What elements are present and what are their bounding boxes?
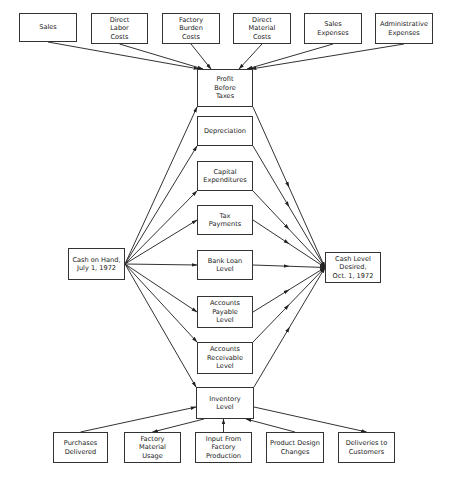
connector-arrow — [191, 44, 211, 69]
node-tax: Tax Payments — [197, 205, 253, 235]
node-capex: Capital Expenditures — [197, 161, 253, 191]
node-factory-burden: Factory Burden Costs — [162, 13, 220, 44]
connector-arrow — [253, 191, 325, 268]
connector-arrow — [253, 265, 325, 268]
connector-arrow — [253, 146, 325, 268]
node-direct-labor: Direct Labor Costs — [91, 13, 148, 44]
connector-arrow — [125, 264, 197, 312]
node-purchases: Purchases Delivered — [53, 432, 108, 463]
connector-arrow — [125, 264, 197, 265]
connector-arrow — [125, 220, 197, 264]
connector-arrow — [81, 407, 197, 432]
node-depreciation: Depreciation — [197, 116, 253, 146]
connector-arrow — [254, 268, 325, 388]
node-direct-material: Direct Material Costs — [233, 13, 291, 44]
node-bank-loan: Bank Loan Level — [197, 250, 253, 280]
node-inventory: Inventory Level — [196, 387, 254, 419]
connector-arrow — [251, 44, 404, 69]
node-ap: Accounts Payable Level — [197, 296, 253, 328]
node-factory-input: Input From Factory Production — [195, 432, 252, 463]
connector-arrow — [247, 44, 333, 69]
node-design-changes: Product Design Changes — [266, 432, 324, 463]
connector-arrow — [125, 264, 196, 387]
connector-arrow — [153, 419, 205, 432]
node-ar: Accounts Receivable Level — [197, 342, 253, 374]
connector-arrow — [120, 44, 204, 69]
connector-arrow — [125, 264, 197, 342]
connector-arrow — [48, 42, 199, 69]
node-factory-usage: Factory Material Usage — [124, 432, 181, 463]
node-cash-on-hand: Cash on Hand, July 1, 1972 — [68, 248, 125, 280]
node-admin-expenses: Administrative Expenses — [375, 13, 433, 44]
node-profit: Profit Before Taxes — [197, 69, 253, 107]
connector-arrow — [246, 419, 295, 432]
node-sales: Sales — [19, 13, 77, 42]
connector-arrow — [254, 407, 367, 432]
connector-arrow — [125, 191, 197, 264]
node-deliveries: Deliveries to Customers — [338, 432, 395, 463]
node-sales-expenses: Sales Expenses — [304, 13, 362, 44]
node-cash-desired: Cash Level Desired, Oct. 1, 1972 — [325, 252, 381, 283]
connector-arrow — [125, 146, 197, 264]
connector-arrow — [125, 107, 197, 264]
